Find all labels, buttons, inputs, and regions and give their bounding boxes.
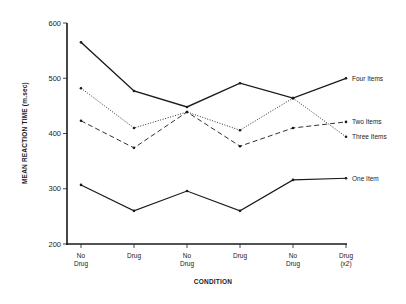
y-tick-label: 400 xyxy=(48,129,61,138)
data-point xyxy=(345,77,348,80)
x-tick-label: Drug xyxy=(233,252,247,260)
x-tick-label: Drug xyxy=(286,260,300,268)
data-point xyxy=(186,106,189,109)
data-point xyxy=(345,177,348,180)
data-point xyxy=(80,184,83,187)
data-point xyxy=(292,97,295,100)
data-point xyxy=(133,127,136,130)
data-point xyxy=(186,111,189,114)
x-tick-label: No xyxy=(289,252,298,259)
y-axis-title: MEAN REACTION TIME (m.sec) xyxy=(21,82,29,184)
y-tick-label: 200 xyxy=(48,240,61,249)
data-point xyxy=(80,41,83,44)
x-axis-title: CONDITION xyxy=(194,278,232,285)
data-point xyxy=(239,145,242,148)
data-point xyxy=(292,179,295,182)
x-tick-label: Drug xyxy=(127,252,141,260)
axes xyxy=(66,23,347,245)
data-point xyxy=(133,210,136,213)
data-point xyxy=(345,136,348,139)
data-point xyxy=(80,87,83,90)
y-tick-label: 300 xyxy=(48,184,61,193)
y-tick-label: 500 xyxy=(48,74,61,83)
series-label-three-items: Three Items xyxy=(352,133,387,140)
series-labels: Four ItemsTwo ItemsThree ItemsOne Item xyxy=(352,75,387,182)
chart-canvas: 200300400500600 NoDrugDrugNoDrugDrugNoDr… xyxy=(0,0,406,304)
data-point xyxy=(239,82,242,85)
x-tick-label: Drug xyxy=(180,260,194,268)
y-axis-ticks: 200300400500600 xyxy=(48,19,67,249)
y-tick-label: 600 xyxy=(48,19,61,28)
series-label-one-item: One Item xyxy=(352,175,379,182)
data-point xyxy=(292,127,295,130)
reaction-time-chart: 200300400500600 NoDrugDrugNoDrugDrugNoDr… xyxy=(0,0,406,304)
x-tick-label: No xyxy=(183,252,192,259)
series-line-two-items xyxy=(81,112,346,148)
data-point xyxy=(345,121,348,124)
x-tick-label: (x2) xyxy=(340,260,351,268)
x-tick-label: Drug xyxy=(74,260,88,268)
data-point xyxy=(186,190,189,193)
x-tick-label: Drug xyxy=(339,252,353,260)
data-point xyxy=(80,119,83,122)
x-tick-label: No xyxy=(77,252,86,259)
data-point xyxy=(133,90,136,93)
series-label-two-items: Two Items xyxy=(352,118,382,125)
data-point xyxy=(239,129,242,132)
series-line-four-items xyxy=(81,42,346,107)
data-point xyxy=(239,210,242,213)
series-lines xyxy=(80,41,348,212)
series-label-four-items: Four Items xyxy=(352,75,384,82)
data-point xyxy=(133,147,136,150)
series-line-one-item xyxy=(81,178,346,211)
x-axis-ticks: NoDrugDrugNoDrugDrugNoDrugDrug(x2) xyxy=(74,244,353,268)
